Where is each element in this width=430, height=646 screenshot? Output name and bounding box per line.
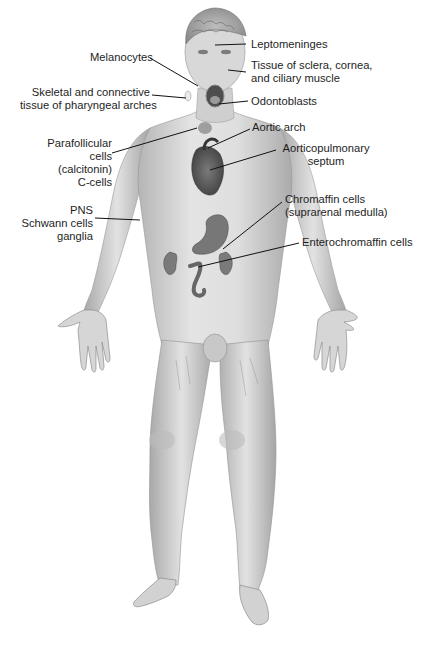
label-chromaffin: Chromaffin cells (suprarenal medulla)	[285, 193, 388, 219]
right-leg	[150, 340, 215, 585]
label-sclera: Tissue of sclera, cornea, and ciliary mu…	[251, 59, 372, 85]
left-hand	[314, 310, 357, 372]
label-aortic-arch: Aortic arch	[252, 121, 305, 134]
label-melanocytes: Melanocytes	[90, 51, 150, 64]
right-kidney	[164, 252, 177, 275]
ear	[185, 91, 191, 101]
left-kidney	[219, 252, 232, 275]
label-skeletal-connective: Skeletal and connective tissue of pharyn…	[20, 86, 150, 112]
left-foot	[240, 585, 269, 625]
left-leg	[216, 340, 276, 590]
cropped-caption: ▁▂ ▁ ▁▂▁ ▁ ▂▁ ▁▂▁▂ ▁ ▁▂▁ ▁▂ ▁▁ ▂▁	[100, 636, 430, 646]
leader-skeletal	[152, 95, 186, 98]
right-hand	[58, 310, 110, 372]
label-pns: PNS Schwann cells ganglia	[20, 204, 93, 243]
thyroid	[198, 122, 212, 134]
left-knee	[219, 430, 245, 450]
left-eye	[221, 50, 231, 54]
label-parafollicular: Parafollicular cells (calcitonin) C-cell…	[40, 137, 112, 189]
right-knee	[149, 430, 175, 450]
right-eye	[198, 50, 208, 54]
label-odontoblasts: Odontoblasts	[251, 95, 317, 108]
label-leptomeninges: Leptomeninges	[251, 38, 328, 51]
right-foot	[133, 578, 176, 607]
label-enterochromaffin: Enterochromaffin cells	[302, 236, 412, 249]
genitals	[203, 334, 227, 362]
label-aorticopulmonary: Aorticopulmonary septum	[276, 142, 376, 168]
